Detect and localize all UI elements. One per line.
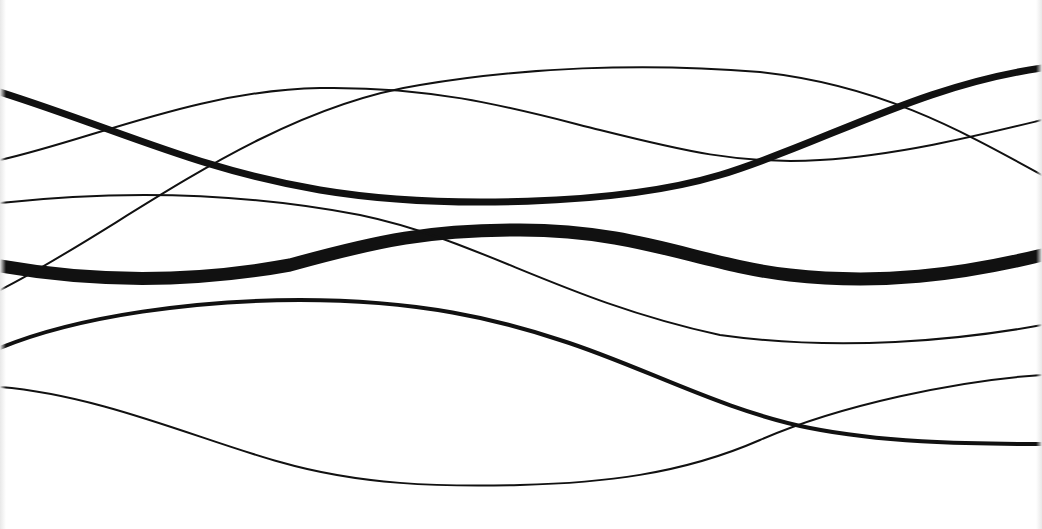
wavy-lines-artwork [0, 0, 1042, 529]
line-art-canvas [0, 0, 1042, 529]
left-edge-shadow [0, 0, 6, 529]
right-edge-shadow [1036, 0, 1042, 529]
background [0, 0, 1042, 529]
